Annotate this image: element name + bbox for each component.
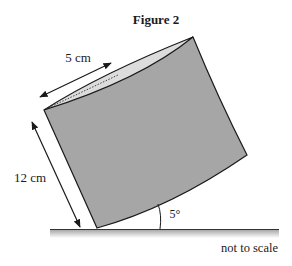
figure-canvas: Figure 2 5 cm 12 cm 5° not to scale bbox=[0, 0, 292, 266]
diameter-label: 5 cm bbox=[65, 50, 91, 65]
angle-label: 5° bbox=[170, 207, 181, 221]
figure-title: Figure 2 bbox=[133, 12, 179, 27]
angle-arc bbox=[158, 204, 161, 229]
ground-shadow bbox=[50, 229, 279, 238]
not-to-scale-note: not to scale bbox=[221, 241, 278, 255]
height-label: 12 cm bbox=[14, 170, 46, 185]
